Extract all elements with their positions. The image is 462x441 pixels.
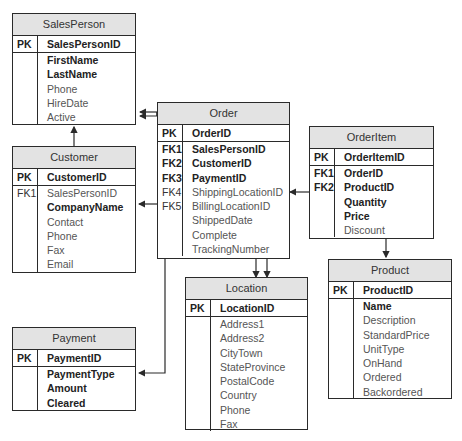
field-row: Active: [13, 110, 135, 124]
key-column-divider: [37, 169, 38, 272]
entity-body: PK OrderID FK1SalesPersonID FK2CustomerI…: [158, 125, 289, 256]
field-row: FK4ShippingLocationID: [158, 185, 289, 199]
field-row: PaymentType: [13, 367, 135, 381]
field-name: UnitType: [355, 342, 404, 356]
field-row: Ordered: [329, 370, 451, 384]
pk-label: PK: [158, 125, 184, 141]
field-row: Phone: [186, 403, 307, 417]
entity-title: OrderItem: [310, 127, 433, 149]
field-name: Price: [336, 209, 370, 223]
field-name: Description: [355, 313, 416, 327]
field-row: StandardPrice: [329, 328, 451, 342]
field-row: FK2CustomerID: [158, 156, 289, 170]
field-name: OrderID: [336, 166, 383, 180]
field-row: Phone: [13, 229, 135, 243]
field-row: CompanyName: [13, 200, 135, 214]
field-name: CompanyName: [39, 200, 123, 214]
pk-field: ProductID: [355, 282, 413, 298]
entity-product[interactable]: Product PK ProductID Name Description St…: [328, 259, 452, 399]
field-name: StandardPrice: [355, 328, 430, 342]
field-name: LastName: [39, 67, 97, 81]
field-name: Backordered: [355, 385, 423, 399]
pk-row: PK OrderID: [158, 125, 289, 142]
field-row: Quantity: [310, 195, 433, 209]
field-row: HireDate: [13, 96, 135, 110]
field-row: FK1OrderID: [310, 166, 433, 180]
entity-title: Location: [186, 278, 307, 300]
fk-label: FK1: [13, 186, 39, 200]
key-column-divider: [37, 36, 38, 124]
field-name: PostalCode: [212, 374, 274, 388]
key-column-divider: [182, 125, 183, 256]
field-row: ShippedDate: [158, 213, 289, 227]
field-name: Name: [355, 299, 392, 313]
field-name: Cleared: [39, 396, 86, 410]
key-column-divider: [334, 149, 335, 237]
field-row: Address1: [186, 317, 307, 331]
pk-field: SalesPersonID: [39, 36, 121, 52]
field-name: FirstName: [39, 53, 98, 67]
field-name: Fax: [212, 417, 238, 431]
field-name: Amount: [39, 381, 87, 395]
field-name: SalesPersonID: [39, 186, 117, 200]
field-name: Phone: [212, 403, 250, 417]
field-row: Country: [186, 388, 307, 402]
entity-title: Customer: [13, 147, 135, 169]
pk-row: PK ProductID: [329, 282, 451, 299]
field-row: Complete: [158, 228, 289, 242]
field-row: FirstName: [13, 53, 135, 67]
entity-location[interactable]: Location PK LocationID Address1 Address2…: [185, 277, 308, 430]
field-name: Country: [212, 388, 257, 402]
entity-title: SalesPerson: [13, 14, 135, 36]
field-row: FK5BillingLocationID: [158, 199, 289, 213]
field-row: Email: [13, 257, 135, 271]
field-row: Address2: [186, 331, 307, 345]
pk-field: PaymentID: [39, 350, 101, 366]
fk-label: FK2: [158, 156, 184, 170]
entity-salesperson[interactable]: SalesPerson PK SalesPersonID FirstName L…: [12, 13, 136, 125]
pk-row: PK CustomerID: [13, 169, 135, 186]
field-row: Amount: [13, 381, 135, 395]
field-row: OnHand: [329, 356, 451, 370]
fk-label: FK1: [310, 166, 336, 180]
field-row: LastName: [13, 67, 135, 81]
field-name: Email: [39, 257, 73, 271]
key-column-divider: [353, 282, 354, 399]
fk-label: FK5: [158, 199, 184, 213]
field-row: Fax: [186, 417, 307, 431]
field-row: Phone: [13, 82, 135, 96]
entity-title: Product: [329, 260, 451, 282]
field-name: PaymentType: [39, 367, 115, 381]
field-row: Backordered: [329, 385, 451, 399]
fk-label: FK4: [158, 185, 184, 199]
link-order-payment: [139, 258, 165, 373]
pk-label: PK: [329, 282, 355, 298]
field-row: Price: [310, 209, 433, 223]
field-row: Cleared: [13, 396, 135, 410]
entity-body: PK OrderItemID FK1OrderID FK2ProductID Q…: [310, 149, 433, 237]
field-name: TrackingNumber: [184, 242, 269, 256]
entity-customer[interactable]: Customer PK CustomerID FK1SalesPersonID …: [12, 146, 136, 273]
entity-payment[interactable]: Payment PK PaymentID PaymentType Amount …: [12, 327, 136, 411]
pk-label: PK: [13, 350, 39, 366]
key-column-divider: [210, 300, 211, 431]
key-column-divider: [37, 350, 38, 410]
entity-order[interactable]: Order PK OrderID FK1SalesPersonID FK2Cus…: [157, 102, 290, 259]
field-name: OnHand: [355, 356, 402, 370]
pk-label: PK: [310, 149, 336, 165]
pk-field: OrderID: [184, 125, 231, 141]
field-name: SalesPersonID: [184, 142, 266, 156]
entity-title: Order: [158, 103, 289, 125]
entity-orderitem[interactable]: OrderItem PK OrderItemID FK1OrderID FK2P…: [309, 126, 434, 239]
field-row: Description: [329, 313, 451, 327]
field-row: FK2ProductID: [310, 180, 433, 194]
fk-label: FK2: [310, 180, 336, 194]
entity-body: PK ProductID Name Description StandardPr…: [329, 282, 451, 399]
pk-row: PK PaymentID: [13, 350, 135, 367]
pk-row: PK LocationID: [186, 300, 307, 317]
field-name: PaymentID: [184, 171, 246, 185]
fk-label: FK1: [158, 142, 184, 156]
field-name: ProductID: [336, 180, 394, 194]
field-name: Phone: [39, 82, 77, 96]
pk-row: PK SalesPersonID: [13, 36, 135, 53]
